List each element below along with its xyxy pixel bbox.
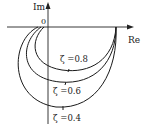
curve-zeta-0.8 — [35, 27, 116, 71]
tick-zeta-0.8 — [68, 69, 69, 72]
nyquist-diagram: Im Re 0 ζ =0.8 ζ =0.6 ζ =0.4 — [0, 0, 145, 126]
origin-label: 0 — [41, 17, 46, 26]
re-axis-label: Re — [128, 35, 140, 45]
im-axis-label: Im — [33, 2, 46, 12]
im-axis-arrow-icon — [46, 2, 51, 9]
label-zeta-0.4: ζ =0.4 — [53, 113, 81, 123]
re-axis-arrow-icon — [127, 25, 134, 30]
label-zeta-0.6: ζ =0.6 — [53, 86, 81, 96]
label-zeta-0.8: ζ =0.8 — [60, 54, 88, 64]
